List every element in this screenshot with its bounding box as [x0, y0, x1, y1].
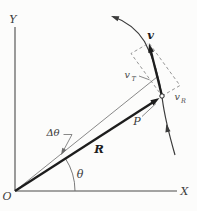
delta-theta-label: Δθ	[45, 127, 59, 138]
motion-direction-arrowhead	[165, 124, 170, 132]
origin-label: O	[2, 190, 11, 203]
vector-diagram-figure: Y X O R v θ Δθ P v T v R	[0, 0, 197, 211]
theta-angle-arc	[65, 158, 75, 191]
trajectory-curve	[114, 17, 176, 155]
delta-theta-leader-line	[64, 135, 73, 150]
v-t-label: v	[125, 69, 131, 80]
v-vector-shaft	[151, 50, 163, 97]
second-radius-line	[15, 77, 157, 191]
point-p-label: P	[132, 115, 141, 128]
x-axis-label: X	[180, 185, 190, 198]
v-t-label-subscript: T	[132, 75, 137, 83]
point-p-marker	[160, 94, 164, 98]
v-r-label-subscript: R	[180, 97, 186, 105]
theta-label: θ	[77, 168, 84, 181]
diagram-canvas: Y X O R v θ Δθ P v T v R	[0, 0, 197, 211]
r-vector-shaft	[15, 102, 153, 191]
trajectory-arrowhead	[111, 16, 119, 21]
y-axis-label: Y	[9, 13, 18, 26]
delta-theta-arrowhead	[61, 148, 66, 155]
v-r-label: v	[175, 91, 181, 102]
v-vector-label: v	[147, 28, 154, 42]
r-vector-label: R	[93, 142, 104, 156]
